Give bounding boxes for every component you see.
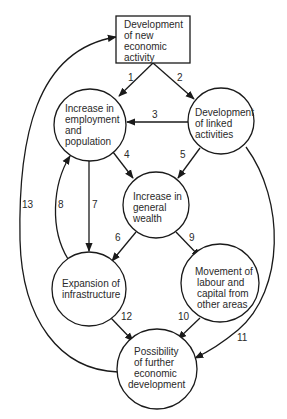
node-text-line: economic	[134, 368, 177, 379]
node-text-line: development	[128, 379, 185, 390]
node-text-line: Development	[124, 19, 183, 30]
node-linked-activities: Development of linked activities	[188, 88, 257, 154]
edge-7-label: 7	[92, 199, 98, 210]
node-text-line: infrastructure	[62, 289, 121, 300]
economic-development-diagram: 1 2 3 4 5 6 7 8 9 10 11 12 13	[0, 0, 287, 419]
node-text-line: Development	[195, 107, 254, 118]
svg-text:Expansion of infrastruct: Expansion of infrastructure	[62, 278, 123, 300]
node-text-line: general	[133, 202, 166, 213]
edge-2-arrow	[153, 63, 194, 99]
edge-5-label: 5	[180, 149, 186, 160]
svg-text:Possibility of further: Possibility of further economic developm…	[128, 346, 185, 390]
node-text-line: activity	[124, 52, 155, 63]
node-general-wealth: Increase in general wealth	[123, 172, 189, 238]
edge-1-arrow	[119, 63, 153, 96]
node-movement-of-labour: Movement of labour and capital from othe…	[181, 244, 259, 322]
edge-12-label: 12	[121, 311, 133, 322]
edge-3-label: 3	[152, 109, 158, 120]
node-text-line: wealth	[132, 213, 162, 224]
edge-11-label: 11	[237, 332, 248, 343]
node-new-activity: Development of new economic activity	[116, 16, 190, 63]
edge-13-label: 13	[22, 199, 34, 210]
node-text-line: and	[65, 125, 82, 136]
node-text-line: of linked	[195, 118, 232, 129]
node-text-line: Expansion of	[62, 278, 120, 289]
node-text-line: Increase in	[133, 191, 182, 202]
node-infrastructure: Expansion of infrastructure	[52, 252, 126, 326]
node-text-line: of new	[124, 30, 154, 41]
node-text-line: employment	[65, 114, 120, 125]
edge-8-label: 8	[58, 199, 64, 210]
node-text-line: of further	[134, 357, 175, 368]
node-text-line: economic	[124, 41, 167, 52]
edge-6-label: 6	[115, 232, 121, 243]
node-employment: Increase in employment and population	[54, 89, 126, 161]
node-text-line: capital from	[197, 288, 249, 299]
node-text-line: Movement of	[195, 266, 253, 277]
svg-text:Movement of labour and: Movement of labour and capital from othe…	[195, 266, 256, 310]
edge-4-label: 4	[124, 149, 130, 160]
node-text-line: Possibility	[134, 346, 178, 357]
node-text-line: other areas	[197, 299, 248, 310]
edge-2-label: 2	[177, 72, 183, 83]
edge-9-label: 9	[189, 232, 195, 243]
edge-10-label: 10	[178, 311, 190, 322]
node-text-line: activities	[195, 129, 233, 140]
node-further-development: Possibility of further economic developm…	[117, 329, 197, 409]
node-text-line: population	[65, 136, 111, 147]
node-text-line: Increase in	[65, 103, 114, 114]
edge-1-label: 1	[128, 72, 134, 83]
edge-4-arrow	[113, 152, 133, 178]
node-text-line: labour and	[197, 277, 244, 288]
